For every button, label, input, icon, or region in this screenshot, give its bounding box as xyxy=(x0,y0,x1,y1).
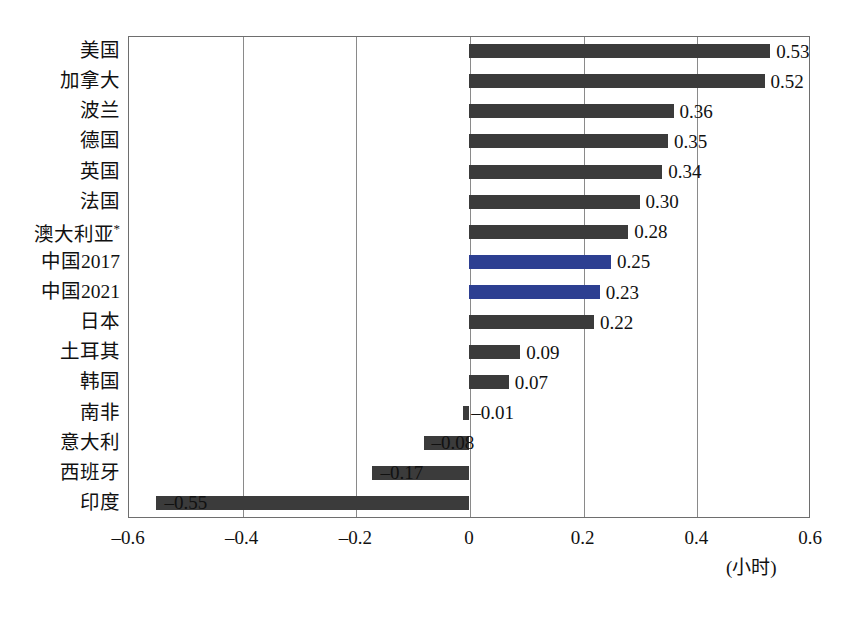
category-label: 土耳其 xyxy=(2,342,120,362)
bar xyxy=(469,345,520,359)
value-label: –0.55 xyxy=(164,493,207,512)
bar-chart-figure: 美国0.53加拿大0.52波兰0.36德国0.35英国0.34法国0.30澳大利… xyxy=(0,0,849,618)
value-label: –0.17 xyxy=(380,463,423,482)
category-label: 韩国 xyxy=(2,372,120,392)
value-label: 0.22 xyxy=(600,313,633,332)
bar xyxy=(469,104,674,118)
bar xyxy=(469,255,611,269)
gridline xyxy=(356,37,357,517)
category-label: 法国 xyxy=(2,192,120,212)
value-label: 0.28 xyxy=(634,222,667,241)
bar xyxy=(469,285,600,299)
category-label: 中国2017 xyxy=(2,252,120,272)
category-label: 澳大利亚* xyxy=(2,222,120,244)
value-label: 0.07 xyxy=(515,373,548,392)
x-axis-tick-label: 0.6 xyxy=(770,528,849,547)
category-label: 加拿大 xyxy=(2,71,120,91)
category-label: 印度 xyxy=(2,493,120,513)
bar xyxy=(469,44,770,58)
x-axis-unit-label: (小时) xyxy=(726,558,777,577)
x-axis-tick-label: 0.2 xyxy=(543,528,623,547)
category-label: 西班牙 xyxy=(2,463,120,483)
x-axis-tick-label: 0 xyxy=(429,528,509,547)
bar xyxy=(469,195,640,209)
category-label: 波兰 xyxy=(2,101,120,121)
value-label: –0.01 xyxy=(471,403,514,422)
bar xyxy=(469,134,668,148)
value-label: 0.35 xyxy=(674,132,707,151)
category-label: 美国 xyxy=(2,41,120,61)
value-label: 0.30 xyxy=(646,192,679,211)
value-label: 0.53 xyxy=(776,42,809,61)
bar xyxy=(469,225,628,239)
bar xyxy=(469,165,662,179)
category-label: 南非 xyxy=(2,403,120,423)
value-label: 0.52 xyxy=(771,72,804,91)
x-axis-tick-label: –0.2 xyxy=(315,528,395,547)
value-label: 0.23 xyxy=(606,283,639,302)
x-axis-tick-label: 0.4 xyxy=(656,528,736,547)
value-label: 0.36 xyxy=(680,102,713,121)
value-label: 0.09 xyxy=(526,343,559,362)
x-axis-tick-label: –0.6 xyxy=(88,528,168,547)
category-label: 意大利 xyxy=(2,433,120,453)
value-label: 0.25 xyxy=(617,252,650,271)
category-label: 德国 xyxy=(2,131,120,151)
category-label: 日本 xyxy=(2,312,120,332)
category-label: 中国2021 xyxy=(2,282,120,302)
value-label: –0.08 xyxy=(432,433,475,452)
gridline xyxy=(243,37,244,517)
bar xyxy=(463,406,469,420)
x-axis-tick-label: –0.4 xyxy=(202,528,282,547)
bar xyxy=(469,375,509,389)
bar xyxy=(469,74,765,88)
bar xyxy=(469,315,594,329)
value-label: 0.34 xyxy=(668,162,701,181)
category-label: 英国 xyxy=(2,162,120,182)
